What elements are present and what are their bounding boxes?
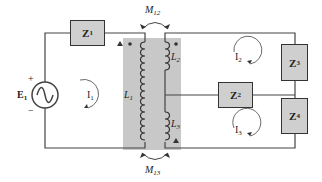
inductor-l1-label: L1 [124,90,133,102]
loop-current-i2-label: I2 [235,52,242,64]
polarity-dot-l2 [174,42,178,46]
circuit-diagram: Z1 Z2 Z3 Z4 + − E1 L1 L2 L3 M12 M13 I1 I… [0,0,322,182]
inductor-l2-label: L2 [171,52,180,64]
impedance-z4: Z4 [281,98,308,134]
inductor-l3-label: L3 [171,119,180,131]
impedance-z1: Z1 [70,20,105,46]
circuit-wiring [0,0,322,182]
impedance-z3: Z3 [281,44,308,81]
mutual-m12-label: M12 [145,5,160,17]
source-minus-sign: − [28,106,34,116]
loop-current-i3-label: I3 [235,125,242,137]
source-plus-sign: + [28,74,34,84]
loop-current-i1-label: I1 [87,90,94,102]
mutual-m13-label: M13 [145,165,160,177]
polarity-triangle-l1 [117,41,123,46]
polarity-dot-l1 [128,42,132,46]
impedance-z2: Z2 [218,82,253,108]
source-label: E1 [17,90,27,102]
